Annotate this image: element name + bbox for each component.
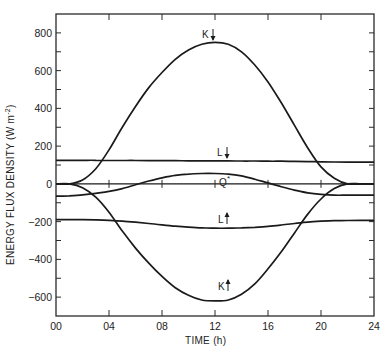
svg-text:K: K [202,29,209,40]
svg-text:L: L [217,147,223,158]
x-tick-label: 12 [209,320,221,332]
x-tick-label: 00 [50,320,62,332]
series-line-L↑ [56,220,374,229]
series-label-k-down: K [202,29,216,41]
svg-text:Q: Q [219,177,227,188]
x-tick-label: 20 [315,320,327,332]
y-axis-title: ENERGY FLUX DENSITY (W m-2) [4,104,16,265]
y-tick-label: −200 [28,216,52,228]
arrow-up-icon [225,212,230,224]
y-tick-label: −400 [28,253,52,265]
series-label-l-up: L [218,212,230,225]
svg-text:L: L [218,214,224,225]
series-line-L↓ [56,160,374,162]
svg-text:*: * [227,174,230,183]
x-tick-label: 24 [368,320,380,332]
svg-text:K: K [218,281,225,292]
series-label-k-up: K [218,279,231,292]
x-axis-title: TIME (h) [185,335,226,346]
y-tick-label: 600 [34,65,52,77]
arrow-up-icon [226,279,231,291]
arrow-down-icon [225,147,230,159]
y-tick-label: −600 [28,291,52,303]
series-label-l-down: L [217,147,230,159]
y-tick-label: 400 [34,102,52,114]
plot-frame [56,14,374,316]
arrow-down-icon [211,29,216,41]
y-tick-label: 800 [34,27,52,39]
series-lines [56,42,374,301]
x-tick-label: 04 [103,320,115,332]
y-tick-label: 200 [34,140,52,152]
series-line-K↑ [56,184,374,301]
svg-text:ENERGY FLUX DENSITY (W m-2): ENERGY FLUX DENSITY (W m-2) [4,104,16,265]
y-axis-ticks: 8006004002000−200−400−600 [28,27,374,303]
series-label-q-star: Q * [219,174,230,188]
x-tick-label: 16 [262,320,274,332]
x-tick-label: 08 [156,320,168,332]
series-line-K↓ [56,42,374,184]
energy-flux-chart: 8006004002000−200−400−600 00040812162024… [0,0,392,357]
y-tick-label: 0 [46,178,52,190]
